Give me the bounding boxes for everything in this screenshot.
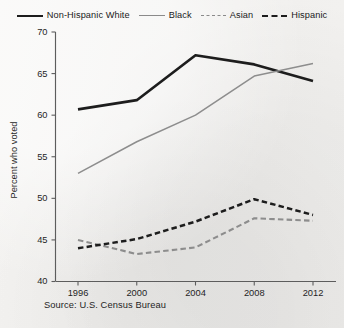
data-series-group — [78, 55, 313, 254]
y-axis-title: Percent who voted — [9, 121, 19, 198]
source-note: Source: U.S. Census Bureau — [44, 300, 166, 310]
x-tick-label: 2008 — [244, 288, 265, 298]
y-tick-label: 50 — [37, 193, 47, 203]
x-tick-label: 2012 — [303, 288, 324, 298]
x-tick-label: 1996 — [68, 288, 89, 298]
y-tick-label: 45 — [37, 235, 47, 245]
plot-area: 40455055606570 19962000200420082012 Perc… — [0, 0, 344, 328]
y-tick-label: 40 — [37, 276, 47, 286]
y-axis-ticks: 40455055606570 — [37, 27, 55, 287]
y-tick-label: 55 — [37, 152, 47, 162]
voter-turnout-line-chart: Non-Hispanic White Black Asian Hispanic … — [0, 0, 344, 328]
y-tick-label: 70 — [37, 27, 47, 37]
x-tick-label: 2004 — [185, 288, 206, 298]
series-line-non-hispanic-white — [78, 55, 313, 109]
y-tick-label: 65 — [37, 69, 47, 79]
x-axis-ticks: 19962000200420082012 — [68, 282, 324, 298]
series-line-hispanic — [78, 199, 313, 248]
plot-svg: 40455055606570 19962000200420082012 Perc… — [0, 0, 344, 328]
series-line-black — [78, 64, 313, 174]
y-tick-label: 60 — [37, 110, 47, 120]
x-tick-label: 2000 — [126, 288, 147, 298]
series-line-asian — [78, 218, 313, 254]
